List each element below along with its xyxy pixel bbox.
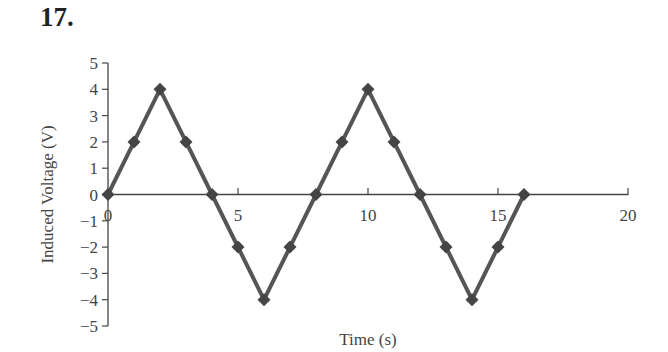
axis-labels: 543210−1−2−3−4−505101520Time (s)Induced … xyxy=(38,54,637,349)
y-tick-label: 5 xyxy=(90,54,99,73)
diamond-marker xyxy=(102,188,115,201)
diamond-marker xyxy=(154,83,167,96)
diamond-marker xyxy=(180,135,193,148)
x-tick-label: 0 xyxy=(104,206,113,225)
x-tick-label: 15 xyxy=(490,206,507,225)
voltage-time-chart: 543210−1−2−3−4−505101520Time (s)Induced … xyxy=(0,0,668,352)
y-axis-title: Induced Voltage (V) xyxy=(38,125,57,263)
diamond-marker xyxy=(336,135,349,148)
diamond-marker xyxy=(388,135,401,148)
diamond-marker xyxy=(466,293,479,306)
y-tick-label: −2 xyxy=(80,238,98,257)
diamond-marker xyxy=(492,241,505,254)
diamond-marker xyxy=(310,188,323,201)
x-axis-title: Time (s) xyxy=(339,330,396,349)
diamond-marker xyxy=(258,293,271,306)
diamond-marker xyxy=(128,135,141,148)
y-tick-label: 1 xyxy=(90,159,99,178)
diamond-marker xyxy=(414,188,427,201)
x-tick-label: 5 xyxy=(234,206,243,225)
diamond-marker xyxy=(232,241,245,254)
x-tick-label: 20 xyxy=(620,206,637,225)
y-tick-label: −3 xyxy=(80,264,98,283)
y-tick-label: −5 xyxy=(80,317,98,336)
y-tick-label: 4 xyxy=(90,80,99,99)
y-tick-label: 0 xyxy=(90,186,99,205)
diamond-marker xyxy=(362,83,375,96)
y-tick-label: −1 xyxy=(80,212,98,231)
diamond-marker xyxy=(518,188,531,201)
diamond-marker xyxy=(440,241,453,254)
axes xyxy=(102,63,628,326)
y-tick-label: 3 xyxy=(90,107,99,126)
x-tick-label: 10 xyxy=(360,206,377,225)
y-tick-label: 2 xyxy=(90,133,99,152)
diamond-marker xyxy=(206,188,219,201)
y-tick-label: −4 xyxy=(80,291,99,310)
diamond-marker xyxy=(284,241,297,254)
